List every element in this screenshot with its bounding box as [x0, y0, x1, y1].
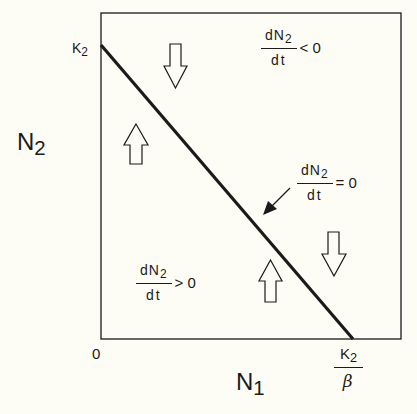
region-below-label: dN2 dt > 0	[136, 262, 196, 303]
x-axis-label: N1	[236, 370, 265, 399]
region-below-den: dt	[146, 284, 162, 303]
arrow-up-icon	[259, 260, 282, 302]
x-axis-label-sub: 1	[253, 377, 264, 399]
y-axis-label-sub: 2	[34, 137, 45, 159]
y-axis-label: N2	[17, 130, 46, 159]
y-intercept-label: K2	[72, 41, 88, 59]
isocline-den: dt	[307, 184, 323, 203]
pointer-arrow-icon	[263, 188, 290, 215]
x-intercept-num: K2	[334, 345, 363, 368]
x-intercept-den: β	[343, 368, 355, 391]
y-intercept-main: K	[72, 40, 81, 56]
region-above-label: dN2 dt < 0	[261, 27, 321, 68]
isocline-relation: = 0	[336, 174, 357, 191]
arrow-down-icon	[322, 232, 346, 276]
y-axis-label-main: N	[17, 128, 34, 155]
region-above-den: dt	[271, 49, 287, 68]
isocline-num: dN2	[297, 162, 333, 184]
arrow-down-icon	[164, 44, 187, 88]
arrow-up-icon	[124, 124, 148, 164]
x-axis-label-main: N	[236, 368, 253, 395]
region-above-num: dN2	[261, 27, 297, 49]
y-intercept-sub: 2	[81, 45, 88, 59]
origin-label: 0	[92, 346, 100, 361]
region-below-num: dN2	[136, 262, 172, 284]
isocline-label: dN2 dt = 0	[297, 162, 357, 203]
region-above-relation: < 0	[300, 39, 321, 56]
region-below-relation: > 0	[175, 274, 196, 291]
x-intercept-label: K2 β	[334, 345, 363, 391]
